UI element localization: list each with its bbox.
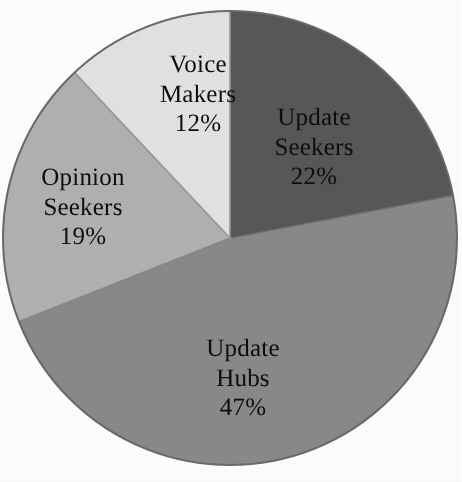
pie-label-update-seekers-line2: Seekers bbox=[252, 133, 376, 163]
pie-label-update-seekers: Update Seekers 22% bbox=[252, 103, 376, 192]
pie-label-opinion-seekers-line1: Opinion bbox=[17, 163, 149, 193]
pie-label-opinion-seekers-line2: Seekers bbox=[17, 193, 149, 223]
pie-label-update-seekers-value: 22% bbox=[252, 162, 376, 192]
pie-label-update-seekers-line1: Update bbox=[252, 103, 376, 133]
pie-label-update-hubs-line1: Update bbox=[176, 334, 310, 364]
pie-label-update-hubs-value: 47% bbox=[176, 393, 310, 423]
pie-label-opinion-seekers-value: 19% bbox=[17, 222, 149, 252]
pie-label-voice-makers-value: 12% bbox=[140, 109, 256, 139]
pie-label-opinion-seekers: Opinion Seekers 19% bbox=[17, 163, 149, 252]
pie-label-voice-makers: Voice Makers 12% bbox=[140, 50, 256, 139]
pie-label-update-hubs-line2: Hubs bbox=[176, 364, 310, 394]
pie-label-voice-makers-line2: Makers bbox=[140, 80, 256, 110]
pie-chart-figure: Update Seekers 22% Voice Makers 12% Opin… bbox=[0, 0, 462, 482]
pie-label-voice-makers-line1: Voice bbox=[140, 50, 256, 80]
pie-label-update-hubs: Update Hubs 47% bbox=[176, 334, 310, 423]
